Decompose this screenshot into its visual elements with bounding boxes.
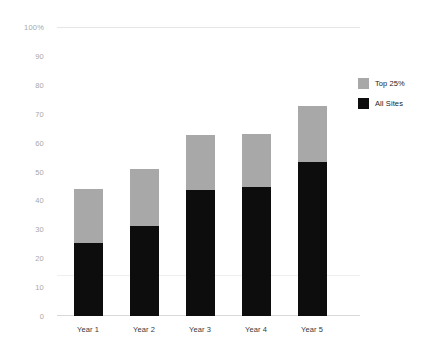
bar-year-2[interactable] xyxy=(130,169,159,316)
bar-segment-top-25 xyxy=(130,169,159,226)
legend: Top 25% All Sites xyxy=(358,78,405,118)
y-tick-label: 80 xyxy=(35,80,44,89)
y-tick-label: 70 xyxy=(35,109,44,118)
bar-segment-all-sites xyxy=(242,187,271,316)
y-tick-label: 40 xyxy=(35,196,44,205)
gridline-100 xyxy=(57,27,360,28)
bar-segment-all-sites xyxy=(74,243,103,316)
bar-year-3[interactable] xyxy=(186,135,215,316)
x-tick-label-year-1: Year 1 xyxy=(77,325,99,334)
y-tick-label: 100% xyxy=(24,23,44,32)
x-tick-label-year-3: Year 3 xyxy=(189,325,211,334)
y-axis: 100% 90 80 70 60 50 40 30 20 10 0 xyxy=(0,27,44,316)
bar-segment-all-sites xyxy=(186,190,215,316)
legend-swatch-top-25 xyxy=(358,78,369,89)
bar-year-1[interactable] xyxy=(74,189,103,316)
bar-segment-top-25 xyxy=(186,135,215,190)
bar-segment-all-sites xyxy=(130,226,159,316)
legend-item-all-sites[interactable]: All Sites xyxy=(358,98,405,109)
y-tick-label: 50 xyxy=(35,167,44,176)
y-tick-label: 20 xyxy=(35,254,44,263)
bar-segment-top-25 xyxy=(74,189,103,243)
x-tick-label-year-5: Year 5 xyxy=(301,325,323,334)
bar-segment-top-25 xyxy=(242,134,271,187)
bar-segment-top-25 xyxy=(298,106,327,162)
bar-segment-all-sites xyxy=(298,162,327,316)
legend-item-top-25[interactable]: Top 25% xyxy=(358,78,405,89)
stacked-bar-chart: 100% 90 80 70 60 50 40 30 20 10 0 xyxy=(0,0,427,354)
x-tick-label-year-4: Year 4 xyxy=(245,325,267,334)
plot-area xyxy=(57,27,360,316)
y-tick-label: 0 xyxy=(40,312,44,321)
legend-swatch-all-sites xyxy=(358,98,369,109)
bar-year-5[interactable] xyxy=(298,106,327,316)
y-tick-label: 60 xyxy=(35,138,44,147)
x-tick-label-year-2: Year 2 xyxy=(133,325,155,334)
y-tick-label: 10 xyxy=(35,283,44,292)
legend-label-top-25: Top 25% xyxy=(375,79,405,88)
y-tick-label: 30 xyxy=(35,225,44,234)
y-tick-label: 90 xyxy=(35,51,44,60)
legend-label-all-sites: All Sites xyxy=(375,99,403,108)
bar-year-4[interactable] xyxy=(242,134,271,316)
